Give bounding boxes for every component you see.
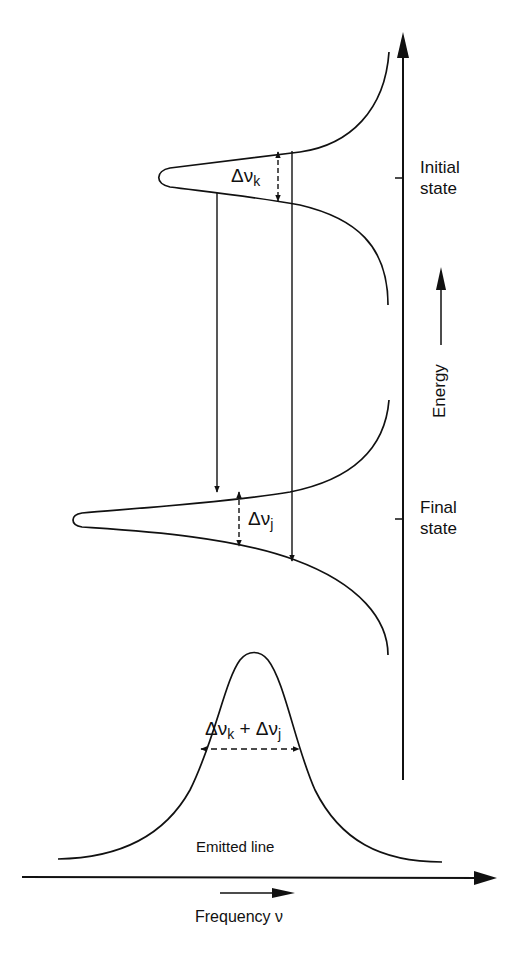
delta-k-subscript: k [253,173,260,189]
initial-state-label: Initial state [420,157,460,199]
emitted-line-label: Emitted line [196,838,274,855]
delta-j-label: Δνj [248,508,273,532]
sum-j-subscript: j [278,726,281,742]
final-state-line1: Final [420,497,457,518]
sum-width-label: Δνk + Δνj [205,718,281,742]
frequency-axis-arrow [22,871,497,885]
final-state-label: Final state [420,497,457,539]
frequency-axis-label: Frequency ν [195,908,283,926]
initial-state-lorentzian-profile [159,52,389,305]
energy-axis-arrow [397,32,409,780]
final-state-lorentzian-profile [73,400,389,655]
delta-k-label: Δνk [231,165,260,189]
initial-state-line1: Initial [420,157,460,178]
broadening-diagram [0,0,521,968]
delta-j-subscript: j [270,516,273,532]
initial-state-line2: state [420,178,460,199]
sum-plus-delta-j: + Δν [234,718,278,739]
energy-direction-arrow [436,267,446,345]
delta-j-symbol: Δν [248,508,270,529]
final-state-line2: state [420,518,457,539]
delta-k-symbol: Δν [231,165,253,186]
sum-delta-k: Δν [205,718,227,739]
energy-axis-label: Energy [430,364,450,418]
frequency-direction-arrow [220,888,295,898]
emitted-line-profile [58,653,442,863]
